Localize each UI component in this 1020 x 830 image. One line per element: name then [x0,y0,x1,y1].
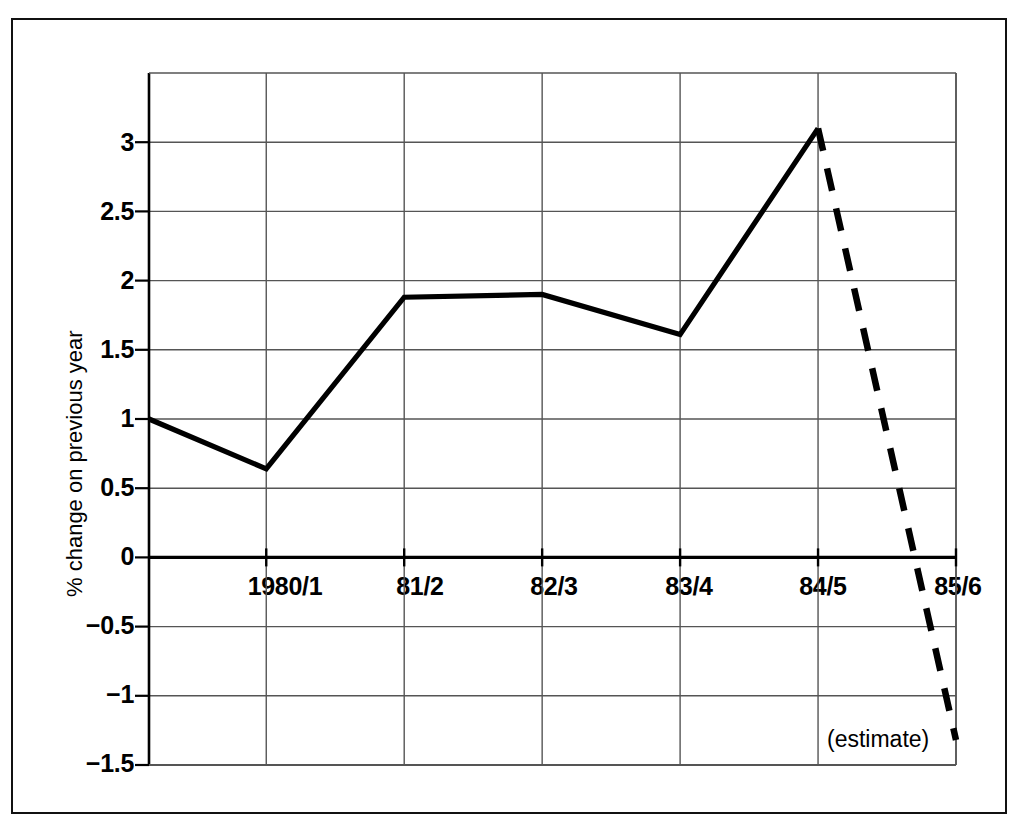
chart-figure: % change on previous year 3 2.5 2 1.5 1 … [0,0,1020,830]
series-estimate [818,128,956,740]
data-series [149,128,956,740]
series-actual [149,128,818,468]
axis-ticks [135,142,956,765]
chart-plot-area [0,0,1020,830]
gridlines [149,73,956,765]
